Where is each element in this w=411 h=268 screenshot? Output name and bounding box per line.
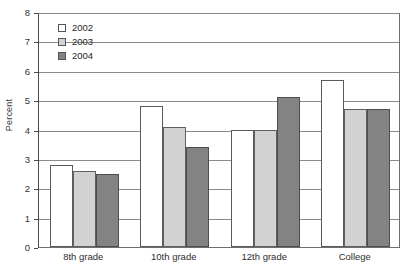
y-axis-label: Percent [4,85,14,145]
y-tick-label: 8 [14,7,30,18]
bar-2004-3 [367,109,390,247]
bar-2003-0 [73,171,96,247]
y-tick-label: 2 [14,183,30,194]
x-tick-label: College [310,251,401,262]
y-tick-label: 7 [14,36,30,47]
y-tick-label: 4 [14,125,30,136]
y-tick-label: 0 [14,242,30,253]
bar-2003-1 [163,127,186,247]
legend-swatch-icon [58,38,66,46]
bar-2002-0 [50,165,73,247]
x-tick-label: 8th grade [38,251,129,262]
legend-item: 2002 [58,22,93,33]
bar-chart: Percent 012345678 8th grade10th grade12t… [0,0,411,268]
bar-2003-3 [344,109,367,247]
legend-swatch-icon [58,52,66,60]
bar-2002-3 [321,80,344,247]
bar-2004-1 [186,147,209,247]
legend-label: 2003 [72,37,93,47]
x-tick-label: 10th grade [129,251,220,262]
y-tick-label: 3 [14,154,30,165]
legend-label: 2004 [72,51,93,61]
legend-item: 2003 [58,36,93,47]
legend: 2002 2003 2004 [58,22,93,61]
legend-item: 2004 [58,50,93,61]
legend-label: 2002 [72,23,93,33]
y-tick-label: 1 [14,213,30,224]
bar-2002-2 [231,130,254,248]
bar-2004-2 [277,97,300,247]
y-tick-label: 6 [14,66,30,77]
x-tick-label: 12th grade [219,251,310,262]
y-tick-mark [34,248,38,249]
bar-2004-0 [96,174,119,247]
bar-2003-2 [254,130,277,248]
bar-2002-1 [140,106,163,247]
legend-swatch-icon [58,24,66,32]
y-tick-label: 5 [14,95,30,106]
